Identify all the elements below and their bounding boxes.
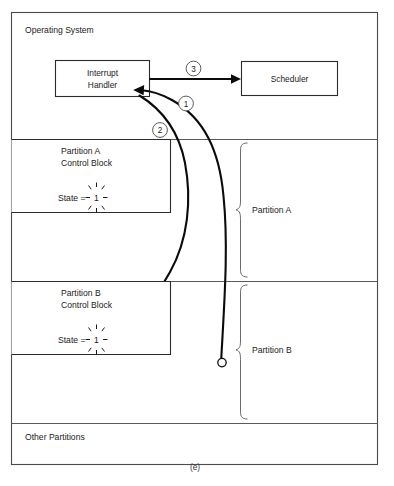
partition-a-brace-label: Partition A (252, 205, 291, 215)
flow-marker-1-label: 1 (184, 100, 189, 109)
os-partition-diagram: Operating System Interrupt Handler Sched… (0, 0, 394, 486)
flow-origin-dot (218, 358, 226, 366)
flow-marker-3-label: 3 (191, 65, 196, 74)
other-partitions-label: Other Partitions (25, 432, 85, 442)
partition-a-state-label: State = (58, 193, 85, 203)
partition-b-state-value: 1 (94, 335, 99, 345)
flow-marker-2-label: 2 (158, 126, 163, 135)
partition-a-brace (236, 143, 248, 277)
partition-b-cb-title-line2: Control Block (61, 300, 113, 310)
interrupt-handler-label-line2: Handler (88, 80, 118, 90)
partition-b-cb-title-line1: Partition B (61, 288, 101, 298)
scheduler-label: Scheduler (271, 74, 309, 84)
partition-a-brace-group: Partition A (236, 143, 291, 277)
partition-a-cb-title-line1: Partition A (61, 146, 100, 156)
partition-a-control-block: Partition A Control Block State = 1 (12, 140, 171, 213)
partition-b-control-block: Partition B Control Block State = 1 (12, 282, 171, 355)
interrupt-handler-label-line1: Interrupt (87, 68, 119, 78)
partition-b-brace (236, 285, 248, 419)
figure-canvas: Operating System Interrupt Handler Sched… (0, 0, 394, 486)
flow-arrow-3-head (231, 74, 241, 84)
partition-a-cb-title-line2: Control Block (61, 158, 113, 168)
figure-caption: (e) (190, 462, 200, 472)
partition-b-brace-label: Partition B (252, 345, 292, 355)
operating-system-label: Operating System (25, 25, 94, 35)
partition-b-state-label: State = (58, 335, 85, 345)
partition-a-state-value: 1 (94, 193, 99, 203)
partition-b-brace-group: Partition B (236, 285, 292, 419)
interrupt-handler-box (56, 61, 150, 97)
